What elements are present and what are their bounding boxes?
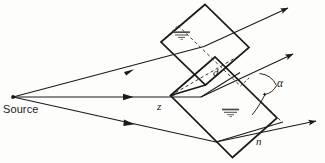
thickness-label-d: d xyxy=(213,67,219,78)
plate-upper xyxy=(161,5,249,86)
incoming-rays xyxy=(13,47,216,143)
dashed-thickness-line xyxy=(171,58,237,96)
arrowhead-icon xyxy=(123,120,134,126)
ray-upper-incoming xyxy=(13,47,204,98)
ray-lower-incoming xyxy=(13,97,216,142)
surface-hatch-lower-icon xyxy=(222,110,239,117)
incoming-ray-arrowheads xyxy=(123,69,135,126)
refractive-index-label-n: n xyxy=(256,136,262,147)
angle-arc-alpha xyxy=(252,74,277,116)
surface-hatch-upper-icon xyxy=(173,32,190,39)
dashed-tick-b xyxy=(241,78,250,86)
arrowhead-icon xyxy=(123,94,134,101)
alpha-arc xyxy=(260,74,277,86)
plate-upper-outline xyxy=(161,5,249,86)
source-point-marker xyxy=(11,95,15,99)
internal-ray-lower xyxy=(216,122,283,142)
source-label: Source xyxy=(3,104,38,115)
axis-label-z: z xyxy=(157,101,161,112)
ray-lower-outgoing xyxy=(216,121,316,142)
figure-canvas: Source z d α n xyxy=(0,0,325,163)
ray-upper-outgoing xyxy=(204,8,288,47)
alpha-arc-lower xyxy=(265,86,277,95)
arrowhead-icon xyxy=(124,69,134,75)
angle-label-alpha: α xyxy=(277,78,283,90)
